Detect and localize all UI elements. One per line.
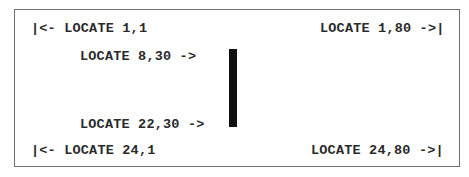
column-bar bbox=[229, 49, 237, 127]
label-locate-1-80: LOCATE 1,80 ->| bbox=[320, 21, 445, 37]
label-locate-24-1: |<- LOCATE 24,1 bbox=[31, 143, 156, 159]
label-locate-8-30: LOCATE 8,30 -> bbox=[80, 49, 196, 65]
label-locate-22-30: LOCATE 22,30 -> bbox=[80, 117, 205, 133]
label-locate-24-80: LOCATE 24,80 ->| bbox=[311, 143, 444, 159]
label-locate-1-1: |<- LOCATE 1,1 bbox=[31, 21, 147, 37]
